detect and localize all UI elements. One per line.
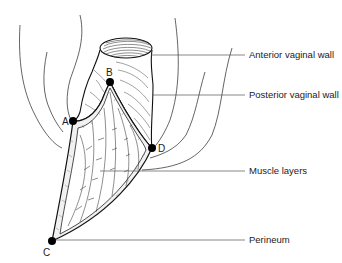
- label-anterior-vaginal-wall: Anterior vaginal wall: [249, 49, 334, 60]
- point-d-label: D: [158, 143, 165, 154]
- point-d-dot: [148, 144, 156, 152]
- label-muscle-layers: Muscle layers: [249, 165, 307, 176]
- point-c-label: C: [43, 247, 50, 258]
- point-a-dot: [69, 117, 77, 125]
- label-perineum: Perineum: [249, 234, 290, 245]
- label-posterior-vaginal-wall: Posterior vaginal wall: [249, 89, 339, 100]
- point-a-label: A: [62, 116, 69, 127]
- point-b-dot: [106, 78, 114, 86]
- point-c-dot: [48, 237, 56, 245]
- perineal-repair-diagram: A B D C Anterior vaginal wall Posterior …: [0, 0, 342, 263]
- point-b-label: B: [106, 67, 113, 78]
